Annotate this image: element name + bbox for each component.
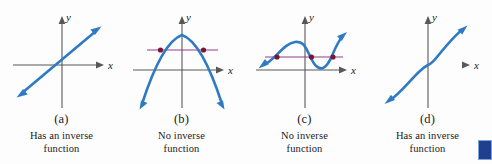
caption-d: (d) Has an inverse function [366, 112, 489, 155]
panel-d: y x (d) Has an inverse function [366, 0, 489, 164]
caption-a: (a) Has an inverse function [0, 112, 123, 155]
caption-text-a: Has an inverse function [0, 130, 123, 155]
y-axis-label: y [308, 11, 314, 23]
caption-c-line1: No inverse [243, 130, 366, 143]
y-axis-arrow [302, 16, 309, 24]
intersection-dot-1 [274, 54, 279, 59]
caption-d-line1: Has an inverse [366, 130, 489, 143]
caption-a-line1: Has an inverse [0, 130, 123, 143]
horizontal-line-test-figure: y x (a) Has an inverse function [0, 0, 492, 164]
curve-c [264, 37, 342, 68]
x-axis-arrow [462, 62, 470, 69]
caption-b: (b) No inverse function [120, 112, 243, 155]
y-axis-label: y [431, 11, 437, 23]
panel-letter-a: (a) [0, 112, 123, 127]
graph-a: y x [0, 8, 123, 112]
y-axis-arrow [179, 16, 186, 24]
x-axis-arrow [96, 62, 104, 69]
graph-b: y x [120, 8, 243, 112]
curve-c-arrow-right [337, 32, 347, 41]
graph-c: y x [243, 8, 366, 112]
y-axis-label: y [185, 11, 191, 23]
x-axis-arrow [216, 67, 224, 74]
intersection-dot-left [158, 47, 163, 52]
x-axis-label: x [227, 64, 233, 76]
caption-c-line2: function [243, 143, 366, 156]
caption-d-line2: function [366, 143, 489, 156]
caption-b-line2: function [120, 143, 243, 156]
panel-a: y x (a) Has an inverse function [0, 0, 123, 164]
curve-b-arrow-right [217, 100, 225, 109]
curve-a [22, 31, 96, 93]
caption-text-c: No inverse function [243, 130, 366, 155]
intersection-dot-3 [330, 54, 335, 59]
panel-b: y x (b) No inverse function [120, 0, 243, 164]
intersection-dot-2 [309, 54, 314, 59]
intersection-dot-right [201, 47, 206, 52]
x-axis-label: x [350, 64, 356, 76]
y-axis-arrow [59, 16, 66, 24]
curve-c-arrow-left [259, 59, 270, 69]
corner-marker [478, 140, 492, 160]
caption-text-b: No inverse function [120, 130, 243, 155]
panel-letter-b: (b) [120, 112, 243, 127]
caption-c: (c) No inverse function [243, 112, 366, 155]
panel-letter-c: (c) [243, 112, 366, 127]
y-axis-arrow [425, 16, 432, 24]
x-axis-arrow [339, 67, 347, 74]
panel-letter-d: (d) [366, 112, 489, 127]
x-axis-label: x [107, 59, 113, 71]
panel-c: y x (c) No inverse function [243, 0, 366, 164]
caption-a-line2: function [0, 143, 123, 156]
x-axis-label: x [473, 59, 479, 71]
graph-d: y x [366, 8, 489, 112]
y-axis-label: y [65, 11, 71, 23]
caption-text-d: Has an inverse function [366, 130, 489, 155]
caption-b-line1: No inverse [120, 130, 243, 143]
curve-b-arrow-left [140, 100, 148, 109]
